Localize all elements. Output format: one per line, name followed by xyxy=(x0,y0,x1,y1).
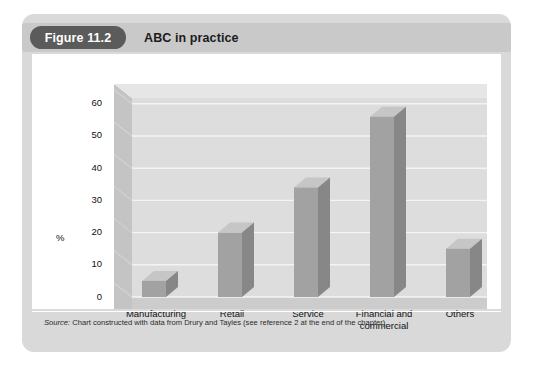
ytick-label-60: 60 xyxy=(76,98,102,108)
source-prefix: Source: xyxy=(44,318,70,327)
figure-number-badge: Figure 11.2 xyxy=(30,26,126,49)
y-axis-title: % xyxy=(56,232,64,243)
bar-others xyxy=(446,239,482,297)
figure-page: Figure 11.2 ABC in practice xyxy=(0,0,533,366)
ytick-label-50: 50 xyxy=(76,130,102,140)
ytick-label-10: 10 xyxy=(76,259,102,269)
figure-title: ABC in practice xyxy=(144,31,239,45)
source-divider xyxy=(32,311,501,312)
ytick-label-40: 40 xyxy=(76,163,102,173)
bar-financial-and-commercial xyxy=(370,107,406,297)
chart-panel: 60 50 40 30 20 10 0 % Manufacturing Reta… xyxy=(32,54,501,309)
figure-header: Figure 11.2 ABC in practice xyxy=(22,23,511,52)
figure-card: Figure 11.2 ABC in practice xyxy=(22,14,511,352)
plot-side-wall xyxy=(114,84,132,297)
plot-top-edge xyxy=(114,84,487,98)
source-note: Source: Chart constructed with data from… xyxy=(44,318,494,328)
ytick-label-0: 0 xyxy=(76,292,102,302)
source-text: Chart constructed with data from Drury a… xyxy=(70,318,387,327)
ytick-label-20: 20 xyxy=(76,227,102,237)
bar-chart xyxy=(32,54,501,309)
bar-service xyxy=(294,178,330,298)
bar-retail xyxy=(218,223,254,297)
ytick-label-30: 30 xyxy=(76,195,102,205)
